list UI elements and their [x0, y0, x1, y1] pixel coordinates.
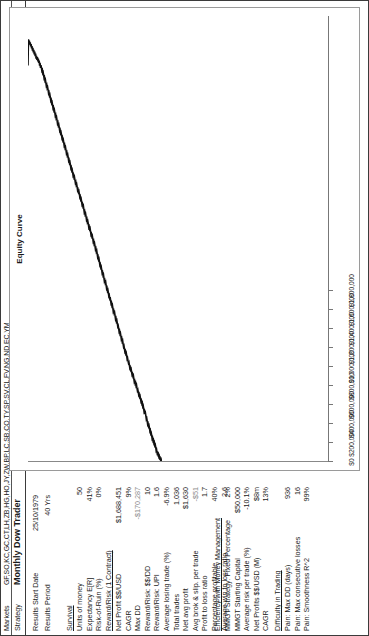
results-period-row: Results Period40 Yrs: [43, 495, 54, 631]
stat-label: Average risk per trade (%): [242, 543, 252, 631]
stat-row: Average losing trade (%)-6.9%: [162, 481, 172, 631]
stat-row: Units of money50: [75, 481, 85, 631]
equity-curve-line: [28, 16, 162, 461]
plot-area: [28, 16, 329, 462]
stat-value: 9%: [124, 487, 134, 543]
stat-label: Max DD: [133, 543, 143, 631]
stat-row: Net Profit $$/USD$1,688,451: [114, 481, 124, 631]
strategy-value: Monthly Dow Trader: [13, 499, 22, 585]
stat-label: Average losing trade (%): [162, 543, 172, 631]
stat-value: 13%: [261, 487, 271, 543]
axis-tick: [328, 347, 333, 348]
results-start-date-label: Results Start Date: [31, 557, 42, 631]
axis-tick: [328, 309, 333, 310]
stat-row: Net avg profit$1,630: [181, 481, 191, 631]
stat-label: Avg brok & slip. per trade: [191, 543, 201, 631]
stat-group-title: Reward/Risk (1 Contract): [104, 481, 114, 631]
results-start-date-value: 25/10/1979: [31, 495, 42, 557]
axis-tick-label: $0: [348, 458, 355, 465]
results-start-date-row: Results Start Date25/10/1979: [31, 495, 42, 631]
stat-label: Pain: Smoothness R^2: [302, 543, 312, 631]
stat-group-title: Efficiency with Money Management: [213, 481, 223, 631]
axis-tick: [328, 442, 333, 443]
report-page: MarketsGF,SO,KC,GC,CT,LH,ZB,HG,HO,JY,ZW,…: [0, 0, 369, 636]
stat-value: 2%: [223, 487, 233, 543]
stat-group-title: Difficulty in Trading: [273, 481, 283, 631]
axis-tick: [328, 328, 333, 329]
stat-value: 1.7: [200, 487, 210, 543]
stat-label: Expectancy E[R]: [85, 543, 95, 631]
stat-label: MMGT Strategy: Fixed Percentage: [223, 543, 233, 631]
page-border: MarketsGF,SO,KC,GC,CT,LH,ZB,HG,HO,JY,ZW,…: [0, 0, 369, 636]
stat-group-reward-risk: Reward/Risk (1 Contract)Net Profit $$/US…: [104, 481, 229, 631]
stat-value: 936: [283, 487, 293, 543]
stat-value: $8m: [252, 487, 262, 543]
axis-tick: [328, 366, 333, 367]
stat-value: -$170,287: [133, 487, 143, 543]
stat-label: Total trades: [172, 543, 182, 631]
stat-row: MMGT Strategy: Fixed Percentage2%: [223, 481, 233, 631]
stat-value: -6.9%: [162, 487, 172, 543]
stat-label: MMGT Starting Capital: [233, 543, 243, 631]
stat-group-title: Survival: [65, 481, 75, 631]
stat-label: Risk-of-Ruin (%): [94, 543, 104, 631]
stat-label: Reward/Risk: $$/DD: [143, 543, 153, 631]
stat-label: CAGR: [124, 543, 134, 631]
stat-value: $50,000: [233, 487, 243, 543]
stat-value: -$51: [191, 487, 201, 543]
stat-label: Net avg profit: [181, 543, 191, 631]
stat-value: 50: [75, 487, 85, 543]
stat-row: Pain: Max DD (days)936: [283, 481, 293, 631]
stat-row: Reward/Risk: UPI1.6: [152, 481, 162, 631]
axis-tick: [328, 385, 333, 386]
axis-tick-label: $1,800,000: [348, 274, 355, 307]
stat-value: 1,036: [172, 487, 182, 543]
stat-value: 99%: [302, 487, 312, 543]
stat-row: Pain: Smoothness R^299%: [302, 481, 312, 631]
stat-row: CAGR9%: [124, 481, 134, 631]
strategy-label: Strategy: [13, 585, 22, 631]
results-period-value: 40 Yrs: [43, 495, 54, 557]
stat-label: CAGR: [261, 543, 271, 631]
axis-tick: [328, 404, 333, 405]
stat-label: Pain: Max DD (days): [283, 543, 293, 631]
value-axis-line: [328, 16, 329, 462]
stat-value: 41%: [85, 487, 95, 543]
stat-label: Net Profits $$/USD (M): [252, 543, 262, 631]
stat-group-survival: SurvivalUnits of money50Expectancy E[R]4…: [65, 481, 104, 631]
stat-row: MMGT Starting Capital$50,000: [233, 481, 243, 631]
stat-row: Profit to loss ratio1.7: [200, 481, 210, 631]
stat-label: Pain: Max consecutive losses: [293, 543, 303, 631]
markets-label: Markets: [2, 585, 11, 631]
stat-value: -10.1%: [242, 487, 252, 543]
equity-curve-chart: Equity Curve $0$200,000$400,000$600,000$…: [9, 7, 360, 471]
stat-label: Profit to loss ratio: [200, 543, 210, 631]
stat-row: Pain: Max consecutive losses16: [293, 481, 303, 631]
stat-value: $1,688,451: [114, 487, 124, 543]
stat-value: 1.6: [152, 487, 162, 543]
stat-value: $1,630: [181, 487, 191, 543]
axis-tick: [328, 290, 333, 291]
stat-label: Net Profit $$/USD: [114, 543, 124, 631]
stat-label: Units of money: [75, 543, 85, 631]
stat-row: Risk-of-Ruin (%)0%: [94, 481, 104, 631]
stat-group-difficulty: Difficulty in TradingPain: Max DD (days)…: [273, 481, 312, 631]
stat-label: Reward/Risk: UPI: [152, 543, 162, 631]
chart-title: Equity Curve: [15, 8, 24, 470]
stat-value: 16: [293, 487, 303, 543]
stat-value: 0%: [94, 487, 104, 543]
stat-row: Avg brok & slip. per trade-$51: [191, 481, 201, 631]
stat-row: Expectancy E[R]41%: [85, 481, 95, 631]
stat-value: 10: [143, 487, 153, 543]
axis-tick: [328, 461, 333, 462]
stat-row: Net Profits $$/USD (M)$8m: [252, 481, 262, 631]
stat-group-efficiency: Efficiency with Money ManagementMMGT Str…: [213, 481, 271, 631]
results-period-label: Results Period: [43, 557, 54, 631]
stat-row: CAGR13%: [261, 481, 271, 631]
stat-row: Max DD-$170,287: [133, 481, 143, 631]
stat-row: Reward/Risk: $$/DD10: [143, 481, 153, 631]
stat-row: Total trades1,036: [172, 481, 182, 631]
axis-tick: [328, 423, 333, 424]
stat-row: Average risk per trade (%)-10.1%: [242, 481, 252, 631]
